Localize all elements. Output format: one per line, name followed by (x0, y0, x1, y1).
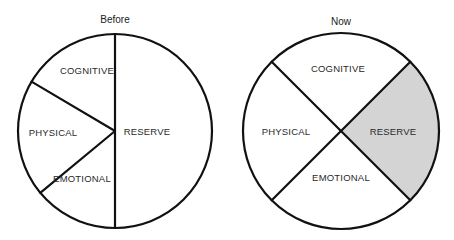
pie-now-label-emotional: EMOTIONAL (312, 172, 370, 183)
pie-charts-canvas: Before COGNITIVEPHYSICALEMOTIONALRESERVE… (0, 0, 454, 240)
pie-before-title: Before (100, 14, 130, 25)
pie-before-label-cognitive: COGNITIVE (60, 65, 114, 76)
pie-now-title: Now (331, 16, 352, 27)
pie-now-label-reserve: RESERVE (370, 126, 417, 137)
pie-now-label-physical: PHYSICAL (262, 126, 311, 137)
pie-before-label-emotional: EMOTIONAL (53, 173, 111, 184)
pie-before: Before COGNITIVEPHYSICALEMOTIONALRESERVE (18, 14, 212, 228)
pie-before-label-reserve: RESERVE (124, 126, 171, 137)
pie-before-label-physical: PHYSICAL (29, 127, 78, 138)
pie-now: Now COGNITIVEPHYSICALEMOTIONALRESERVE (243, 16, 439, 229)
pie-now-label-cognitive: COGNITIVE (311, 63, 365, 74)
